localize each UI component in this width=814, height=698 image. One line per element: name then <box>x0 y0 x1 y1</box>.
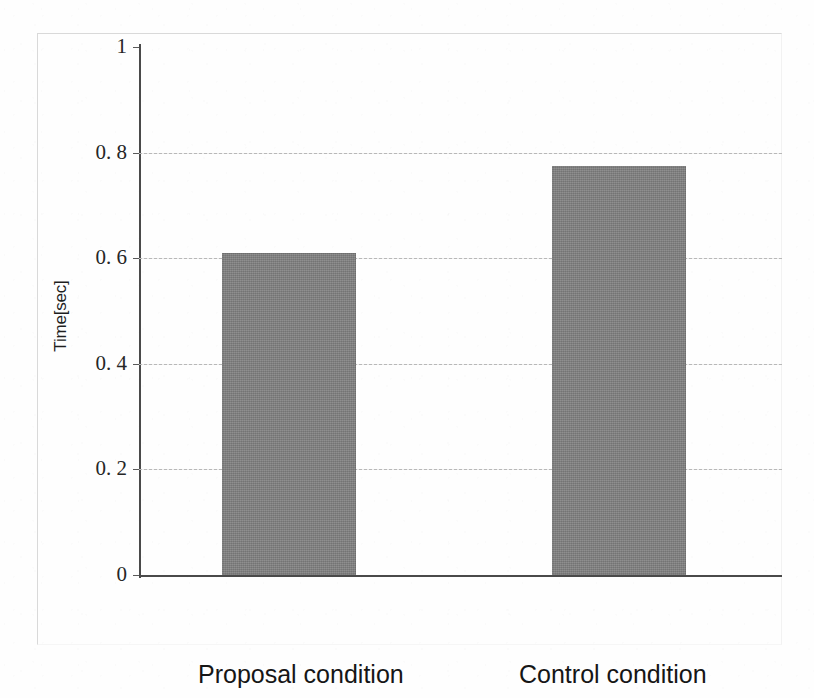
y-tick-label-1: 1 <box>27 34 127 59</box>
x-axis-label-control: Control condition (Video see-through) <box>519 597 740 698</box>
tick-mark-1 <box>133 47 139 48</box>
plot-area: 1 0. 8 0. 6 0. 4 0. 2 0 <box>139 47 782 575</box>
y-axis-line <box>139 44 141 578</box>
bar-control-condition[interactable] <box>552 166 686 575</box>
x-axis-line <box>139 575 782 577</box>
x-axis-label-proposal-line1: Proposal condition <box>198 659 404 690</box>
y-tick-label-0-4: 0. 4 <box>27 351 127 376</box>
y-tick-label-0-8: 0. 8 <box>27 140 127 165</box>
y-tick-label-0-2: 0. 2 <box>27 456 127 481</box>
gridline-0-8 <box>139 153 782 154</box>
y-tick-label-0-6: 0. 6 <box>27 245 127 270</box>
bar-chart-figure: Time[sec] 1 0. 8 0. 6 0. 4 0. 2 0 Propos… <box>0 0 814 698</box>
tick-mark-0-6 <box>133 258 139 259</box>
x-axis-label-control-line1: Control condition <box>519 659 740 690</box>
tick-mark-0-2 <box>133 469 139 470</box>
x-axis-label-proposal: Proposal condition <box>198 597 404 698</box>
y-axis-title-text: Time[sec] <box>51 280 71 351</box>
tick-mark-0-8 <box>133 153 139 154</box>
bar-proposal-condition[interactable] <box>222 253 356 575</box>
tick-mark-0-4 <box>133 364 139 365</box>
y-tick-label-0: 0 <box>27 562 127 587</box>
tick-mark-0 <box>133 575 139 576</box>
